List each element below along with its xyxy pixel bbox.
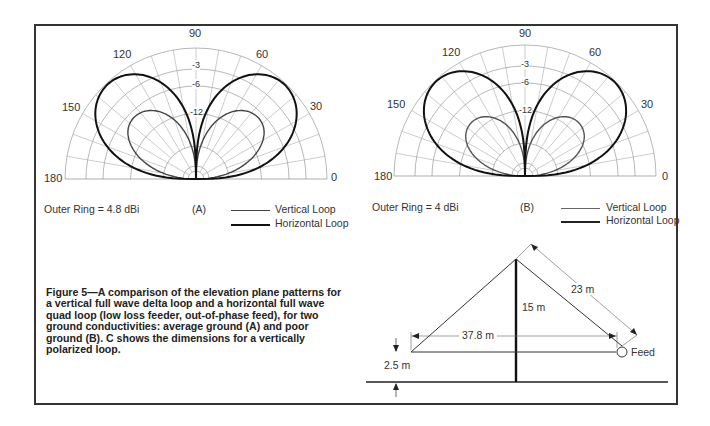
panel-label-b: (B) [520,201,534,213]
panel-label-a: (A) [192,203,206,215]
angle-label-180-a: 180 [44,172,62,184]
outer-ring-label-b: Outer Ring = 4 dBi [372,201,459,213]
angle-label-180-b: 180 [374,170,392,182]
angle-label-150-b: 150 [387,98,405,110]
angle-label-150-a: 150 [62,101,80,113]
ring-label-6-a: -6 [192,79,200,89]
arrow-head-icon [630,328,637,335]
legend-label-vertical-a: Vertical Loop [275,203,336,215]
angle-label-60-b: 60 [589,46,601,58]
arrow-head-icon [412,333,419,339]
legend-swatch-horizontal-b [561,221,600,223]
angle-label-90-b: 90 [519,27,531,39]
feed-point-icon [617,347,627,357]
angle-label-0-a: 0 [331,171,337,183]
arrow-head-icon [531,244,538,251]
legend-swatch-vertical-a [231,210,270,211]
legend-label-horizontal-a: Horizontal Loop [275,217,349,229]
ring-label-3-b: -3 [521,59,529,69]
figure-caption: Figure 5—A comparison of the elevation p… [46,287,346,355]
dimension-height-label: 15 m [522,301,545,313]
angle-label-90-a: 90 [189,27,201,39]
legend-swatch-horizontal-a [231,224,270,226]
ring-label-3-a: -3 [192,60,200,70]
legend-label-vertical-b: Vertical Loop [606,201,667,213]
angle-label-30-b: 30 [641,98,653,110]
ring-label-12-b: -12 [519,105,532,115]
angle-label-120-b: 120 [442,46,460,58]
ring-label-6-b: -6 [521,77,529,87]
angle-label-120-a: 120 [113,48,131,60]
dimension-base-label: 37.8 m [459,329,497,341]
loop-dimension-diagram [366,244,668,397]
angle-label-30-a: 30 [310,100,322,112]
arrow-up-icon [393,383,399,390]
legend-label-horizontal-b: Horizontal Loop [606,214,680,226]
outer-ring-label-a: Outer Ring = 4.8 dBi [44,203,139,215]
arrow-down-icon [393,345,399,352]
dimension-clearance-label: 2.5 m [384,359,410,371]
dimension-side-label: 23 m [571,283,594,295]
angle-label-60-a: 60 [256,48,268,60]
legend-swatch-vertical-b [561,208,600,209]
feed-label: Feed [631,346,655,358]
angle-label-0-b: 0 [662,170,668,182]
ring-label-12-a: -12 [190,107,203,117]
